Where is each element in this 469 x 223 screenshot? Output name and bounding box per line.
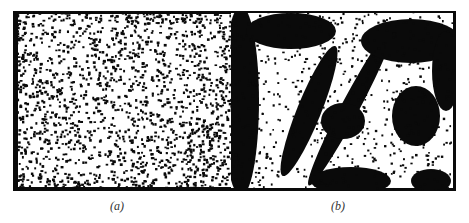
figure xyxy=(13,11,456,191)
speckle-image-b xyxy=(231,11,456,191)
panel-a-image xyxy=(13,11,231,191)
panel-b-image xyxy=(231,11,456,191)
panel-b-caption: (b) xyxy=(331,199,345,214)
speckle-image-a xyxy=(13,11,231,191)
panel-a-caption: (a) xyxy=(110,199,124,214)
